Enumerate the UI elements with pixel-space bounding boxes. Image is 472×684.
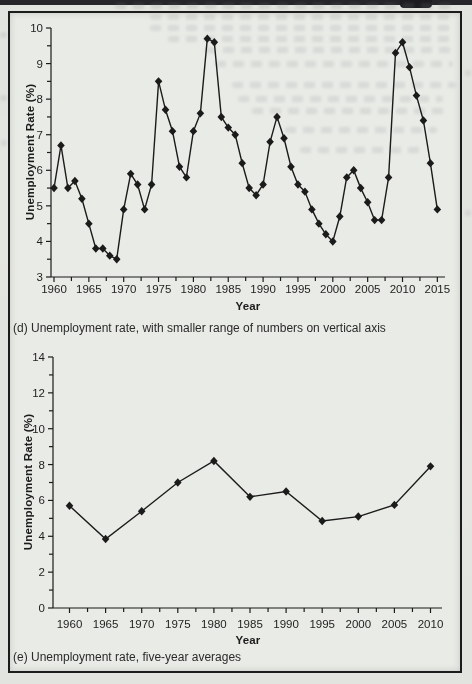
x-tick-label: 2005 [382, 618, 408, 630]
x-tick-label: 1970 [129, 618, 155, 630]
x-tick-label: 1985 [237, 618, 263, 630]
y-tick-label: 8 [39, 459, 45, 471]
y-tick-label: 4 [39, 530, 46, 542]
x-tick-label: 1995 [309, 618, 335, 630]
caption-panel-e: (e) Unemployment rate, five-year average… [13, 650, 453, 664]
x-tick-label: 1965 [93, 618, 119, 630]
diamond-marker [355, 512, 363, 520]
x-tick-label: 1960 [57, 618, 83, 630]
y-tick-label: 6 [39, 494, 45, 506]
axes [48, 357, 442, 613]
chart-e-y-axis-title: Unemployment Rate (%) [22, 342, 36, 622]
x-tick-label: 2000 [346, 618, 372, 630]
scanned-textbook-page: 3456789101960196519701975198019851990199… [0, 0, 472, 684]
chart-e-unemployment-five-year-averages: 0246810121419601965197019751980198519901… [0, 0, 472, 684]
y-tick-label: 2 [39, 566, 45, 578]
y-tick-label: 0 [39, 602, 45, 614]
x-tick-label: 1975 [165, 618, 191, 630]
chart-e-x-axis-title: Year [148, 634, 348, 646]
unemployment-series [66, 457, 435, 543]
x-tick-label: 2010 [418, 618, 444, 630]
x-tick-label: 1990 [273, 618, 299, 630]
x-tick-label: 1980 [201, 618, 227, 630]
